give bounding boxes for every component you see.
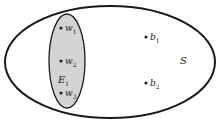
point-w3	[59, 91, 62, 94]
point-b2	[144, 81, 147, 84]
point-b1	[144, 35, 147, 38]
label-S: S	[180, 55, 187, 66]
point-w1	[59, 26, 62, 29]
point-w2	[59, 59, 62, 62]
venn-diagram: w1 w2 E1 w3 b1 b2 S	[0, 0, 218, 124]
